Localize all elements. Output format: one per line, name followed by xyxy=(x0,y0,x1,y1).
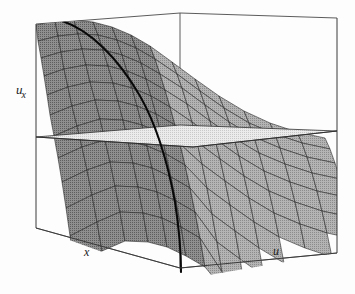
figure-root: ux x u xyxy=(0,0,355,294)
right-horizontal-axis-label: u xyxy=(273,244,279,259)
vertical-axis-label-subscript: x xyxy=(22,89,26,100)
vertical-axis-label: ux xyxy=(16,83,26,100)
left-horizontal-axis-label: x xyxy=(84,245,89,260)
surface-plot-canvas xyxy=(0,0,355,294)
